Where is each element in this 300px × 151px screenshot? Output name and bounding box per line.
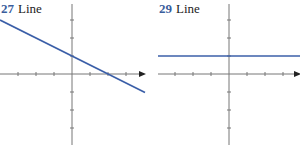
exercise-number: 27 bbox=[1, 1, 14, 16]
chart-29: 29Line bbox=[150, 0, 300, 151]
chart-title: Line bbox=[18, 1, 42, 16]
chart-title: Line bbox=[176, 1, 200, 16]
chart-29-title: 29Line bbox=[159, 1, 200, 17]
chart-27-title: 27Line bbox=[1, 1, 42, 17]
chart-29-plot bbox=[150, 0, 300, 151]
chart-27: 27Line bbox=[0, 0, 150, 151]
x-axis-arrow bbox=[294, 71, 300, 77]
chart-27-plot bbox=[0, 0, 150, 151]
x-axis-arrow bbox=[139, 71, 146, 77]
exercise-number: 29 bbox=[159, 1, 172, 16]
